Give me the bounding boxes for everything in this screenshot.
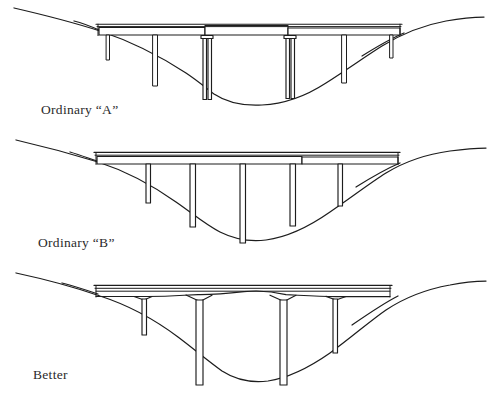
pier-2-a <box>153 35 158 86</box>
pier-3-col-left-a <box>203 39 207 100</box>
pier-1-a <box>107 35 110 60</box>
pier-3-b <box>240 164 246 243</box>
terrain-left-shoulder-a <box>74 21 99 30</box>
terrain-right-break-c <box>352 296 398 325</box>
panel-ordinary-b: Ordinary “B” <box>0 130 492 261</box>
pier-4-col-right-a <box>291 39 295 99</box>
pier-1-c <box>142 299 147 335</box>
pier-4-b <box>290 164 296 226</box>
pier-4-col-left-a <box>286 39 290 99</box>
deck-girder-right-a <box>288 28 400 35</box>
panel-caption-ordinary-b: Ordinary “B” <box>38 236 115 250</box>
terrain-right-break-a <box>362 33 404 56</box>
deck-girder-left-a <box>99 28 205 36</box>
pier-3-c <box>280 300 287 385</box>
pier-6-a <box>390 35 393 58</box>
panel-caption-better: Better <box>33 368 68 382</box>
deck-haunched-soffit-c <box>96 291 390 297</box>
deck-girder-left-b <box>97 157 302 165</box>
pier-2-b <box>190 164 196 227</box>
pier-4-c <box>333 299 338 353</box>
terrain-left-shoulder-b <box>70 152 97 161</box>
terrain-profile-c <box>16 273 486 382</box>
bridge-drawing-better <box>0 261 492 394</box>
panel-ordinary-a: Ordinary “A” <box>0 0 492 130</box>
panel-better: Better <box>0 261 492 394</box>
pier-1-b <box>146 164 151 203</box>
pier-5-b <box>338 164 343 206</box>
deck-girder-center-b <box>302 157 398 164</box>
panel-caption-ordinary-a: Ordinary “A” <box>41 103 118 117</box>
terrain-profile-a <box>14 8 484 105</box>
pier-2-c <box>196 300 203 385</box>
terrain-left-shoulder-c <box>62 283 98 294</box>
pier-3-col-right-a <box>208 39 212 100</box>
terrain-right-break-b <box>356 163 400 187</box>
bridge-comparison-figure: Ordinary “A” Ordinary “B” <box>0 0 492 394</box>
pier-5-a <box>342 35 347 83</box>
